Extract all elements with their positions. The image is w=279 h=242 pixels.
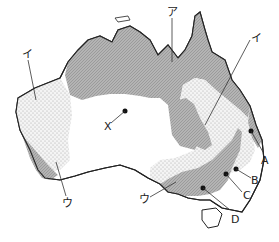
label-c: C [243, 189, 251, 202]
label-x: X [104, 120, 112, 133]
label-i-west: イ [22, 48, 33, 61]
label-u-southwest: ウ [62, 197, 73, 210]
northern-island [115, 16, 130, 22]
zone-i-west [16, 78, 72, 172]
label-u-south: ウ [139, 193, 150, 206]
label-a: A [261, 154, 269, 167]
label-d: D [231, 213, 239, 226]
label-b: B [251, 174, 259, 187]
label-a-katakana: ア [167, 6, 178, 19]
label-i-east: イ [251, 32, 262, 45]
australia-map: X ア イ イ ウ ウ A B C D [0, 0, 279, 242]
tasmania [202, 208, 222, 228]
